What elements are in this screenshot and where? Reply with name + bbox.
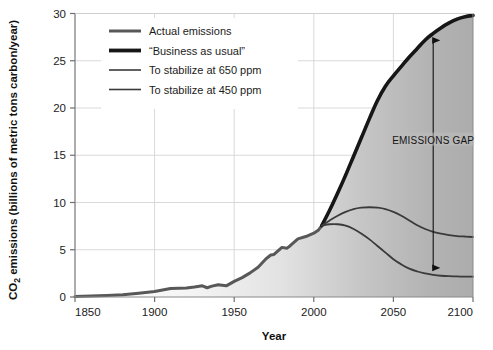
y-tick-label-30: 30 — [53, 8, 66, 20]
y-tick-label-10: 10 — [53, 197, 66, 209]
legend-label-2: To stabilize at 650 ppm — [149, 64, 262, 76]
x-axis-title: Year — [262, 330, 287, 342]
chart-legend: Actual emissions“Business as usual”To st… — [101, 18, 298, 109]
y-axis-title-suffix: emissions (billions of metric tons carbo… — [7, 20, 19, 278]
y-tick-label-0: 0 — [60, 291, 66, 303]
chart-canvas: 185019001950200020502100 051015202530 EM… — [0, 0, 493, 350]
y-tick-label-15: 15 — [53, 149, 66, 161]
x-tick-label-1950: 1950 — [221, 306, 247, 318]
x-tick-label-2100: 2100 — [447, 306, 473, 318]
emissions-gap-label: EMISSIONS GAP — [392, 135, 474, 146]
legend-label-1: “Business as usual” — [149, 45, 245, 57]
co2-emissions-figure: 185019001950200020502100 051015202530 EM… — [0, 0, 493, 350]
x-tick-label-2000: 2000 — [301, 306, 327, 318]
x-tick-label-2050: 2050 — [381, 306, 407, 318]
y-axis-title: CO2 emissions (billions of metric tons c… — [7, 20, 22, 300]
legend-label-3: To stabilize at 450 ppm — [149, 84, 262, 96]
x-tick-label-1850: 1850 — [75, 306, 101, 318]
y-tick-label-20: 20 — [53, 102, 66, 114]
x-axis-ticks: 185019001950200020502100 — [75, 297, 473, 318]
y-axis-title-prefix: CO — [7, 283, 19, 300]
y-tick-label-25: 25 — [53, 55, 66, 67]
svg-text:CO2 emissions (billions of met: CO2 emissions (billions of metric tons c… — [7, 20, 22, 300]
legend-label-0: Actual emissions — [149, 25, 232, 37]
x-tick-label-1900: 1900 — [142, 306, 168, 318]
y-axis-ticks: 051015202530 — [53, 8, 75, 304]
y-tick-label-5: 5 — [60, 244, 66, 256]
